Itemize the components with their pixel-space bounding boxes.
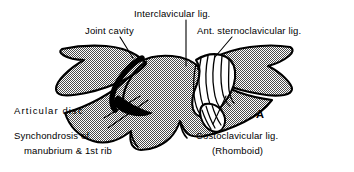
label-interclavicular-lig: Interclavicular lig. <box>134 8 210 20</box>
label-synchondrosis-line-1: Synchondrosis of <box>14 130 89 142</box>
label-costoclavicular-rhomboid-line-2: (Rhomboid) <box>212 145 263 157</box>
label-articular-disc: Articular disc <box>14 105 84 117</box>
label-ant-sternoclavicular-lig: Ant. sternoclavicular lig. <box>197 25 301 37</box>
anatomy-figure-sternoclavicular-joint: Interclavicular lig. Joint cavity Ant. s… <box>0 0 354 172</box>
label-costoclavicular-lig-line-1: Costoclavicular lig. <box>196 130 278 142</box>
label-synchondrosis-line-2: manubrium & 1st rib <box>24 145 112 157</box>
panel-letter-a: A <box>256 108 264 120</box>
label-joint-cavity: Joint cavity <box>85 25 134 37</box>
